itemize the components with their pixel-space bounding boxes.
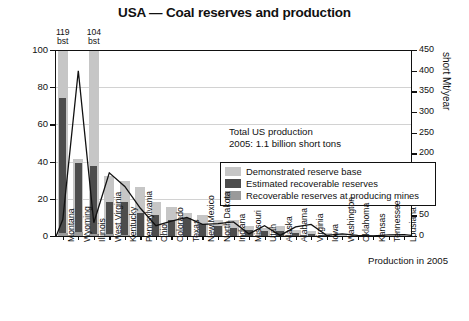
- x-axis-label-illinois: Illinois: [97, 218, 107, 242]
- y-tick-label-left: 40: [8, 156, 48, 167]
- x-axis-label-west-virginia: West Virginia: [113, 192, 123, 242]
- x-axis-label-new-mexico: New Mexico: [206, 195, 216, 242]
- y-tick-label-left: 20: [8, 193, 48, 204]
- x-axis-label-pennsylvania: Pennsylvania: [144, 191, 154, 242]
- x-axis-label-iowa: Iowa: [330, 224, 340, 242]
- page-title: USA — Coal reserves and production: [0, 5, 469, 20]
- legend-item-label: Demonstrated reserve base: [246, 166, 362, 177]
- plot-area: 119bst104bst Total US production 2005: 1…: [55, 50, 412, 237]
- legend-swatch-icon: [225, 167, 241, 176]
- y-tick-label-left: 100: [8, 44, 48, 55]
- x-axis-label-kentucky: Kentucky: [128, 207, 138, 242]
- y-axis-line-left: [55, 50, 56, 237]
- x-axis-label-alaska: Alaska: [284, 216, 294, 242]
- x-axis-label-indiana: Indiana: [237, 214, 247, 242]
- x-axis-label-colorado: Colorado: [175, 207, 185, 242]
- y-tick-right: [412, 50, 417, 51]
- y-tick-right: [412, 112, 417, 113]
- x-axis-label-texas: Texas: [191, 220, 201, 242]
- x-axis-label-lousiana: Lousiana: [408, 207, 418, 242]
- y-tick-label-right: 350: [419, 85, 459, 95]
- y-tick-right: [412, 71, 417, 72]
- y-tick-label-right: 450: [419, 44, 459, 54]
- clipped-bar-value-illinois: 104bst: [74, 28, 114, 46]
- total-production-line2: 2005: 1.1 billion short tons: [229, 138, 439, 150]
- x-axis-label-north-dakota: North Dakota: [222, 191, 232, 242]
- y-tick-label-left: 60: [8, 118, 48, 129]
- y-tick-label-left: 0: [8, 230, 48, 241]
- x-axis-label-kansas: Kansas: [377, 213, 387, 242]
- x-axis-label-alabama: Alabama: [299, 208, 309, 242]
- y-tick-label-right: 300: [419, 106, 459, 116]
- total-production-annotation: Total US production 2005: 1.1 billion sh…: [229, 126, 439, 151]
- legend-swatch-icon: [225, 179, 241, 188]
- legend: Demonstrated reserve baseEstimated recov…: [220, 162, 436, 206]
- y-tick-label-left: 80: [8, 81, 48, 92]
- x-axis-label-utah: Utah: [268, 224, 278, 242]
- x-axis-label-oklahoma: Oklahoma: [361, 203, 371, 242]
- x-axis-label-wyoming: Wyoming: [82, 206, 92, 242]
- y-tick-label-right: 400: [419, 65, 459, 75]
- y-axis-title-right: short Mt/year: [441, 52, 452, 110]
- x-axis-label-montana: Montana: [66, 209, 76, 242]
- y-tick-label-right: 50: [419, 209, 459, 219]
- x-axis-label-washington: Washington: [346, 197, 356, 242]
- x-axis-label-virginia: Virginia: [315, 213, 325, 242]
- clipped-bar-unit: bst: [74, 37, 114, 46]
- y-tick-right: [412, 153, 417, 154]
- y-tick-right: [412, 91, 417, 92]
- x-axis-label-ohio: Ohio: [159, 224, 169, 242]
- x-axis-label-tennessee: Tennessee: [392, 200, 402, 242]
- x-axis-line: [55, 236, 412, 237]
- chart-container: USA — Coal reserves and production billi…: [0, 0, 469, 321]
- legend-item-label: Estimated recoverable reserves: [246, 178, 378, 189]
- production-series-annotation: Production in 2005: [368, 255, 448, 266]
- total-production-line1: Total US production: [229, 126, 439, 138]
- y-tick-label-right: 0: [419, 230, 459, 240]
- x-axis-label-missouri: Missouri: [253, 210, 263, 242]
- plot-border-top: [55, 50, 412, 51]
